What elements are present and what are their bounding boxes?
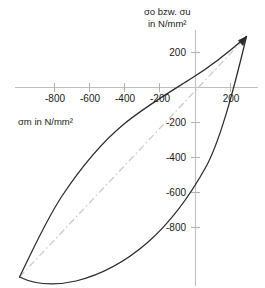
y-tick-label: -600 [152, 187, 186, 198]
plot-area [0, 0, 265, 288]
y-tick-label: -200 [152, 117, 186, 128]
y-tick-label: -400 [152, 152, 186, 163]
x-tick-label: -600 [80, 93, 100, 104]
y-axis-title-line1: σo bzw. σu [144, 6, 191, 17]
sigma-u-curve [20, 37, 247, 284]
sigma-m-reference-line [20, 37, 247, 278]
x-tick-label: -400 [115, 93, 135, 104]
y-tick-label: 200 [156, 47, 186, 58]
x-tick-label: 200 [223, 93, 240, 104]
y-tick-label: -800 [152, 222, 186, 233]
x-tick-label: -800 [45, 93, 65, 104]
y-axis-title: σo bzw. σu in N/mm² [144, 6, 191, 30]
y-axis-title-line2: in N/mm² [144, 18, 191, 30]
x-axis-title: σm in N/mm² [18, 116, 73, 128]
x-tick-label: -200 [150, 93, 170, 104]
hysteresis-chart: σo bzw. σu in N/mm² σm in N/mm² -800 -60… [0, 0, 265, 288]
